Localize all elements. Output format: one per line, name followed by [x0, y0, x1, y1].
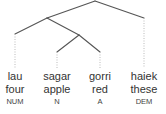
leaf-tag: A [78, 96, 122, 107]
leaf-gloss: these [122, 83, 166, 96]
leaf-gloss: four [0, 83, 37, 96]
leaf-word: sagar [35, 70, 79, 83]
leaf-gloss: apple [35, 83, 79, 96]
branch-inner-a [79, 35, 100, 52]
leaf-word: haiek [122, 70, 166, 83]
branch-root-left [47, 1, 95, 18]
leaf-a: gorri red A [78, 70, 122, 107]
branch-left-num [15, 18, 47, 34]
leaf-num: lau four NUM [0, 70, 37, 107]
branch-inner-n [57, 35, 79, 52]
leaf-tag: NUM [0, 96, 37, 107]
leaf-dem: haiek these DEM [122, 70, 166, 107]
leaf-gloss: red [78, 83, 122, 96]
leaf-word: lau [0, 70, 37, 83]
leaf-tag: N [35, 96, 79, 107]
leaf-tag: DEM [122, 96, 166, 107]
leaf-word: gorri [78, 70, 122, 83]
branch-root-dem [95, 1, 144, 18]
leaf-n: sagar apple N [35, 70, 79, 107]
branch-left-inner [47, 18, 79, 35]
